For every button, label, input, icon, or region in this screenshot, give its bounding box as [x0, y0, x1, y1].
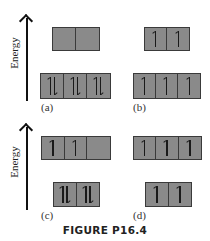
- orbital-box: [134, 137, 156, 159]
- spin-up-arrow-icon: [189, 140, 190, 156]
- panel-b-lower-level: [133, 73, 201, 99]
- orbital-box: [146, 183, 169, 206]
- spin-down-arrow-icon: [100, 77, 101, 95]
- spin-up-arrow-icon: [155, 31, 156, 47]
- orbital-box: [156, 137, 178, 159]
- spin-up-arrow-icon: [178, 31, 179, 47]
- spin-down-arrow-icon: [89, 186, 90, 203]
- orbital-box: [87, 137, 110, 159]
- panel-d-label: (d): [133, 209, 146, 221]
- panel-a-lower-level: [40, 73, 111, 99]
- orbital-box: [169, 183, 192, 206]
- orbital-box: [53, 28, 76, 50]
- spin-up-arrow-icon: [50, 77, 51, 95]
- panel-c-upper-level: [41, 136, 111, 160]
- orbital-box: [77, 183, 100, 206]
- panel-c-label: (c): [41, 209, 53, 221]
- spin-up-arrow-icon: [144, 140, 145, 156]
- orbital-box: [179, 137, 201, 159]
- spin-up-arrow-icon: [73, 77, 74, 95]
- spin-up-arrow-icon: [166, 77, 167, 95]
- spin-down-arrow-icon: [77, 77, 78, 95]
- orbital-box: [41, 74, 64, 98]
- arrow-head-icon: [19, 123, 33, 137]
- figure-caption: FIGURE P16.4: [0, 224, 210, 236]
- panel-a-label: (a): [41, 101, 53, 113]
- spin-up-arrow-icon: [85, 186, 86, 203]
- spin-up-arrow-icon: [179, 186, 180, 203]
- orbital-box: [145, 28, 167, 50]
- spin-up-arrow-icon: [62, 186, 63, 203]
- spin-down-arrow-icon: [54, 77, 55, 95]
- energy-axis-arrow-top: [26, 18, 28, 101]
- orbital-box: [54, 183, 77, 206]
- orbital-box: [156, 74, 178, 98]
- panel-d-lower-level: [145, 182, 192, 207]
- orbital-box: [87, 74, 110, 98]
- orbital-box: [76, 28, 99, 50]
- energy-axis-label-bottom: Energy: [8, 146, 20, 178]
- arrow-head-icon: [19, 14, 33, 28]
- panel-b-label: (b): [133, 101, 146, 113]
- orbital-box: [178, 74, 200, 98]
- energy-axis-label-top: Energy: [8, 37, 20, 69]
- orbital-box: [167, 28, 189, 50]
- spin-up-arrow-icon: [156, 186, 157, 203]
- spin-up-arrow-icon: [144, 77, 145, 95]
- panel-b-upper-level: [144, 27, 190, 51]
- energy-axis-arrow-bottom: [26, 127, 28, 210]
- panel-a-upper-level: [52, 27, 100, 51]
- spin-up-arrow-icon: [52, 140, 53, 156]
- orbital-box: [134, 74, 156, 98]
- spin-up-arrow-icon: [189, 77, 190, 95]
- spin-up-arrow-icon: [96, 77, 97, 95]
- panel-d-upper-level: [133, 136, 202, 160]
- orbital-box: [42, 137, 65, 159]
- spin-up-arrow-icon: [166, 140, 167, 156]
- spin-down-arrow-icon: [66, 186, 67, 203]
- orbital-box: [64, 74, 87, 98]
- orbital-box: [65, 137, 88, 159]
- panel-c-lower-level: [53, 182, 100, 207]
- spin-up-arrow-icon: [75, 140, 76, 156]
